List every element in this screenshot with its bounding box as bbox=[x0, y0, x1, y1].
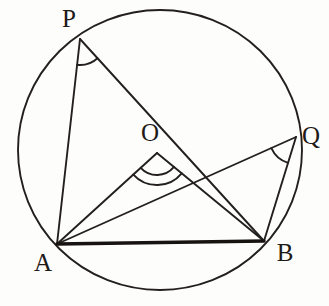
vertex-label-a: A bbox=[34, 249, 52, 276]
geometry-canvas: P Q A B O bbox=[0, 0, 329, 306]
vertex-label-p: P bbox=[62, 5, 76, 32]
vertex-label-b: B bbox=[277, 239, 294, 266]
geometry-figure: P Q A B O bbox=[0, 0, 329, 306]
vertex-label-o: O bbox=[141, 119, 159, 146]
vertex-label-q: Q bbox=[302, 122, 320, 149]
